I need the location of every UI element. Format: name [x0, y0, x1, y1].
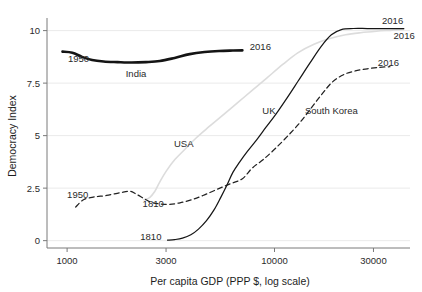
- x-tick-label-1000: 1000: [57, 255, 78, 266]
- x-tick-label-30000: 30000: [360, 255, 386, 266]
- annotation-uk-start-year: 1810: [140, 231, 161, 242]
- annotation-korea-start-year: 1950: [67, 189, 88, 200]
- annotation-india-series-label: India: [126, 68, 147, 79]
- annotation-india-end-year: 2016: [250, 41, 271, 52]
- y-tick-label-0: 0: [35, 235, 40, 246]
- democracy-index-vs-gdp-chart: 02.557.510100030001000030000 1950India20…: [0, 0, 422, 292]
- y-axis-label: Democracy Index: [6, 94, 18, 176]
- annotation-uk-series-label: UK: [262, 105, 276, 116]
- x-axis-label: Per capita GDP (PPP $, log scale): [150, 275, 310, 287]
- chart-figure: 02.557.510100030001000030000 1950India20…: [0, 0, 422, 292]
- y-tick-label-7.5: 7.5: [27, 78, 40, 89]
- annotation-uk-end-year: 2016: [382, 15, 403, 26]
- annotation-india-start-year: 1950: [68, 53, 89, 64]
- annotation-usa-end-year: 2016: [394, 30, 415, 41]
- y-tick-label-5: 5: [35, 130, 40, 141]
- x-tick-label-3000: 3000: [155, 255, 176, 266]
- annotation-usa-series-label: USA: [174, 138, 194, 149]
- y-tick-label-10: 10: [29, 25, 40, 36]
- annotation-korea-series-label: South Korea: [305, 105, 359, 116]
- annotation-usa-start-year: 1810: [143, 198, 164, 209]
- y-tick-label-2.5: 2.5: [27, 183, 40, 194]
- annotation-korea-end-year: 2016: [378, 57, 399, 68]
- x-tick-label-10000: 10000: [261, 255, 287, 266]
